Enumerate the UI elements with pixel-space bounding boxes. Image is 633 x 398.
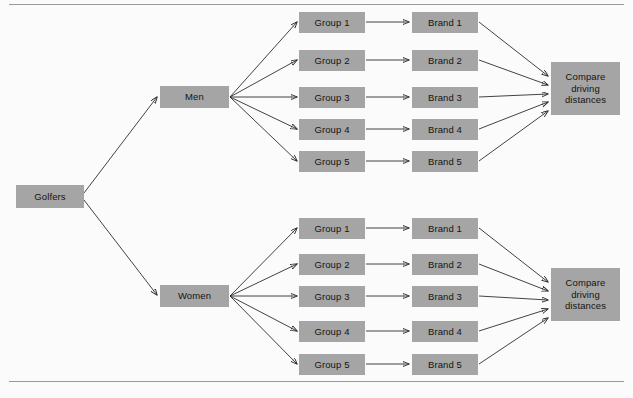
edge-women-to-group-2 [230, 264, 297, 296]
node-men-group-4-label: Group 4 [314, 124, 349, 136]
node-women-compare-label: Compare driving distances [551, 277, 620, 312]
node-women-group-3[interactable]: Group 3 [299, 286, 365, 307]
edge-men-brand-4-to-compare [479, 102, 548, 129]
node-women-brand-2[interactable]: Brand 2 [412, 254, 478, 275]
node-women-brand-5[interactable]: Brand 5 [412, 354, 478, 375]
node-women-group-3-label: Group 3 [314, 291, 349, 303]
edge-men-to-group-2 [230, 60, 297, 97]
node-golfers[interactable]: Golfers [16, 185, 84, 208]
node-men-brand-2-label: Brand 2 [428, 55, 462, 67]
node-men-brand-2[interactable]: Brand 2 [412, 50, 478, 71]
node-men-brand-3[interactable]: Brand 3 [412, 87, 478, 108]
node-men-group-4[interactable]: Group 4 [299, 119, 365, 140]
node-women-group-1-label: Group 1 [314, 223, 349, 235]
node-women-brand-2-label: Brand 2 [428, 259, 462, 271]
node-women-group-2-label: Group 2 [314, 259, 349, 271]
top-horizontal-rule [9, 4, 624, 5]
node-women-group-4[interactable]: Group 4 [299, 321, 365, 342]
node-women-brand-1-label: Brand 1 [428, 223, 462, 235]
edge-golfers-to-men [84, 97, 157, 193]
node-men-group-5-label: Group 5 [314, 156, 349, 168]
node-men-compare-driving-distances[interactable]: Compare driving distances [551, 62, 620, 115]
node-women-group-5[interactable]: Group 5 [299, 354, 365, 375]
edge-men-brand-2-to-compare [479, 60, 548, 85]
node-men-brand-3-label: Brand 3 [428, 92, 462, 104]
node-women-group-1[interactable]: Group 1 [299, 218, 365, 239]
node-men-group-1-label: Group 1 [314, 17, 349, 29]
node-men-group-3[interactable]: Group 3 [299, 87, 365, 108]
edge-men-to-group-1 [230, 22, 297, 97]
node-women-brand-4-label: Brand 4 [428, 326, 462, 338]
node-men-brand-5[interactable]: Brand 5 [412, 151, 478, 172]
node-men-compare-label: Compare driving distances [551, 71, 620, 106]
edge-women-brand-2-to-compare [479, 264, 548, 291]
node-women-group-2[interactable]: Group 2 [299, 254, 365, 275]
edge-women-brand-5-to-compare [479, 318, 548, 364]
edge-women-to-group-5 [230, 296, 297, 364]
node-women-label: Women [178, 290, 211, 302]
edge-women-brand-1-to-compare [479, 228, 548, 282]
edge-men-brand-1-to-compare [479, 22, 548, 76]
node-women-compare-driving-distances[interactable]: Compare driving distances [551, 268, 620, 321]
edge-women-to-group-1 [230, 228, 297, 296]
node-women-brand-3-label: Brand 3 [428, 291, 462, 303]
bottom-horizontal-rule [9, 381, 624, 382]
node-men-brand-5-label: Brand 5 [428, 156, 462, 168]
edge-men-brand-5-to-compare [479, 111, 548, 161]
node-men-group-3-label: Group 3 [314, 92, 349, 104]
edge-women-brand-4-to-compare [479, 309, 548, 331]
edge-men-to-group-5 [230, 97, 297, 161]
node-women-group-4-label: Group 4 [314, 326, 349, 338]
node-women-brand-4[interactable]: Brand 4 [412, 321, 478, 342]
node-women-brand-5-label: Brand 5 [428, 359, 462, 371]
node-men-brand-4[interactable]: Brand 4 [412, 119, 478, 140]
node-men-label: Men [185, 91, 204, 103]
node-men-brand-1-label: Brand 1 [428, 17, 462, 29]
node-women[interactable]: Women [160, 285, 229, 307]
node-women-group-5-label: Group 5 [314, 359, 349, 371]
edge-men-brand-3-to-compare [479, 94, 548, 97]
node-men-group-2-label: Group 2 [314, 55, 349, 67]
diagram-canvas: Golfers Men Group 1 Group 2 Group 3 Grou… [0, 0, 633, 398]
node-men-brand-1[interactable]: Brand 1 [412, 12, 478, 33]
edge-golfers-to-women [84, 200, 157, 295]
node-men-group-1[interactable]: Group 1 [299, 12, 365, 33]
node-women-brand-1[interactable]: Brand 1 [412, 218, 478, 239]
edge-men-to-group-4 [230, 97, 297, 129]
edge-women-to-group-4 [230, 296, 297, 331]
node-golfers-label: Golfers [34, 191, 65, 203]
edge-women-brand-3-to-compare [479, 296, 548, 300]
node-men-group-2[interactable]: Group 2 [299, 50, 365, 71]
node-men-group-5[interactable]: Group 5 [299, 151, 365, 172]
node-men[interactable]: Men [160, 86, 229, 108]
node-women-brand-3[interactable]: Brand 3 [412, 286, 478, 307]
node-men-brand-4-label: Brand 4 [428, 124, 462, 136]
